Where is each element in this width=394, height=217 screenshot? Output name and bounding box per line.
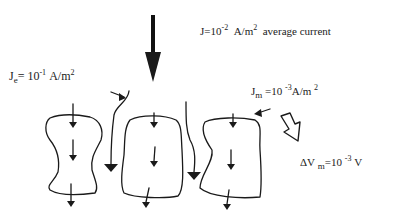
- cell-left-arrows: [67, 104, 77, 207]
- membrane-voltage-label: ΔV m=10 -3 V: [300, 154, 362, 171]
- membrane-current-label: Jm =10 -3A/m 2: [251, 83, 318, 100]
- diagram-canvas: [0, 0, 394, 217]
- jm-pointer-arrow: [254, 109, 270, 117]
- cell-middle-arrows: [142, 113, 158, 208]
- extracellular-path-right: [186, 102, 201, 180]
- cell-middle: [122, 116, 183, 198]
- je-pointer-arrow: [111, 92, 126, 101]
- cell-left: [46, 115, 102, 195]
- average-current-label: J=10-2 A/m2 average current: [200, 23, 331, 37]
- extracellular-current-label: Je= 10-1 A/m2: [9, 68, 74, 85]
- cell-right-arrows: [223, 114, 237, 210]
- membrane-voltage-arrow: [281, 113, 300, 141]
- average-current-arrow: [145, 15, 161, 82]
